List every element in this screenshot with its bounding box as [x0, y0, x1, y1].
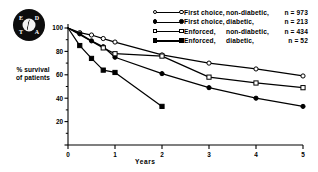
x-axis-label: Years [135, 158, 156, 165]
x-tick-label: 0 [66, 151, 70, 158]
plot-area: 20406080100012345 [0, 0, 318, 172]
y-tick-label: 60 [56, 71, 64, 78]
x-tick-label: 5 [301, 151, 305, 158]
x-tick-label: 4 [254, 151, 258, 158]
data-point-marker [113, 70, 117, 74]
x-tick-label: 2 [160, 151, 164, 158]
data-point-marker [113, 40, 117, 44]
data-point-marker [78, 43, 82, 47]
data-point-marker [254, 81, 258, 85]
data-point-marker [301, 86, 305, 90]
data-point-marker [207, 75, 211, 79]
data-point-marker [207, 86, 211, 90]
data-point-marker [207, 61, 211, 65]
data-point-marker [101, 68, 105, 72]
data-point-marker [89, 56, 93, 60]
y-tick-label: 80 [56, 48, 64, 55]
data-point-marker [160, 54, 164, 58]
y-tick-label: 40 [56, 95, 64, 102]
data-point-marker [89, 33, 93, 37]
data-point-marker [101, 36, 105, 40]
y-tick-label: 100 [52, 24, 63, 31]
data-series-group [68, 28, 305, 108]
data-point-marker [254, 96, 258, 100]
data-point-marker [301, 74, 305, 78]
data-point-marker [160, 72, 164, 76]
data-point-marker [101, 46, 105, 50]
data-point-marker [160, 104, 164, 108]
data-point-marker [254, 67, 258, 71]
data-point-marker [113, 52, 117, 56]
data-point-marker [301, 104, 305, 108]
x-tick-label: 1 [113, 151, 117, 158]
x-tick-label: 3 [207, 151, 211, 158]
axes-group: 20406080100012345 [52, 24, 305, 158]
y-tick-label: 20 [56, 118, 64, 125]
survival-chart-figure: E D T A % survival of patients First cho… [0, 0, 318, 172]
